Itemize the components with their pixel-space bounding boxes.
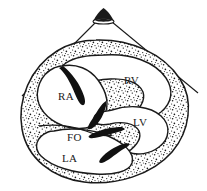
heart-diagram-figure: RA RV LV FO LA <box>0 0 207 191</box>
label-left-atrium: LA <box>62 152 77 164</box>
label-left-ventricle: LV <box>133 116 147 128</box>
label-right-ventricle: RV <box>124 74 139 86</box>
apex-arrowhead-icon <box>93 8 114 24</box>
heart-anatomy-illustration: RA RV LV FO LA <box>0 0 207 191</box>
label-fossa-ovalis: FO <box>67 131 82 143</box>
label-right-atrium: RA <box>58 90 74 102</box>
